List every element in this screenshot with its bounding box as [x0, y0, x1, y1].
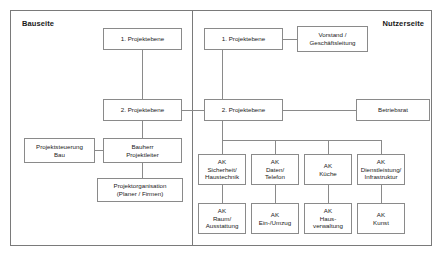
node-label: 1. Projektebene: [106, 35, 179, 43]
connector-bauherr-to-projektorganisation: [142, 163, 143, 178]
connector-nutzer-ebene1-to-vorstand: [283, 39, 297, 40]
node-label: 2. Projektebene: [106, 106, 179, 114]
node-label: AK Kunst: [360, 211, 402, 227]
panel-title-nutzerseite: Nutzerseite: [382, 19, 424, 28]
connector-ak-drop-4: [381, 140, 382, 154]
connector-ak-col1-row1-to-row2: [222, 185, 223, 203]
panel-title-bauseite: Bauseite: [22, 19, 54, 28]
node-ak-dienstleistung-infrastruktur[interactable]: AK Dienstleistung/ Infrastruktur: [357, 154, 405, 185]
connector-bau-ebene1-to-ebene2: [142, 50, 143, 99]
node-label: AK Raum/ Ausstattung: [201, 207, 243, 231]
node-betriebsrat[interactable]: Betriebsrat: [356, 99, 430, 121]
node-nutzerseite-projektebene-2[interactable]: 2. Projektebene: [204, 99, 283, 121]
node-label: Vorstand / Geschäftsleitung: [300, 31, 365, 47]
node-label: AK Daten/ Telefon: [254, 158, 296, 182]
panel-divider: [192, 10, 193, 246]
node-label: Projektsteuerung Bau: [27, 143, 92, 159]
node-ak-kunst[interactable]: AK Kunst: [357, 203, 405, 234]
organization-chart-diagram: Bauseite Nutzerseite 1. Projektebene 2. …: [0, 0, 442, 256]
node-ak-sicherheit-haustechnik[interactable]: AK Sicherheit/ Haustechnik: [198, 154, 246, 185]
node-ak-daten-telefon[interactable]: AK Daten/ Telefon: [251, 154, 299, 185]
connector-nutzer-ebene2-to-ak-bus: [222, 121, 223, 140]
node-ak-hausverwaltung[interactable]: AK Haus- verwaltung: [304, 203, 352, 234]
node-label: AK Küche: [307, 162, 349, 178]
connector-ak-drop-1: [222, 140, 223, 154]
node-label: AK Sicherheit/ Haustechnik: [201, 158, 243, 182]
node-bauseite-projektebene-2[interactable]: 2. Projektebene: [103, 99, 182, 121]
connector-ak-col3-row1-to-row2: [328, 185, 329, 203]
node-projektsteuerung-bau[interactable]: Projektsteuerung Bau: [24, 138, 95, 163]
node-bauseite-projektebene-1[interactable]: 1. Projektebene: [103, 28, 182, 50]
node-label: Betriebsrat: [359, 106, 427, 114]
node-projektorganisation[interactable]: Projektorganisation (Planer / Firmen): [97, 178, 183, 202]
connector-ak-col4-row1-to-row2: [381, 185, 382, 203]
node-label: 2. Projektebene: [207, 106, 280, 114]
node-label: Bauherr Projektleiter: [106, 143, 179, 159]
connector-ak-bus: [222, 140, 382, 141]
node-label: AK Ein-/Umzug: [254, 211, 296, 227]
node-bauherr-projektleiter[interactable]: Bauherr Projektleiter: [103, 138, 182, 163]
connector-ak-drop-3: [328, 140, 329, 154]
connector-ak-col2-row1-to-row2: [275, 185, 276, 203]
node-label: 1. Projektebene: [207, 35, 280, 43]
node-ak-kueche[interactable]: AK Küche: [304, 154, 352, 185]
node-vorstand-geschaeftsleitung[interactable]: Vorstand / Geschäftsleitung: [297, 26, 368, 52]
connector-projektsteuerung-to-bauherr: [95, 150, 103, 151]
node-ak-ein-umzug[interactable]: AK Ein-/Umzug: [251, 203, 299, 234]
node-ak-raum-ausstattung[interactable]: AK Raum/ Ausstattung: [198, 203, 246, 234]
connector-bau-ebene2-to-bauherr: [142, 121, 143, 138]
connector-nutzer-ebene2-to-betriebsrat: [283, 110, 356, 111]
connector-ak-drop-2: [275, 140, 276, 154]
node-label: Projektorganisation (Planer / Firmen): [100, 182, 180, 198]
connector-nutzer-ebene1-to-ebene2: [222, 50, 223, 99]
node-label: AK Dienstleistung/ Infrastruktur: [360, 158, 402, 182]
connector-bau-to-nutzer-ebene2: [182, 110, 204, 111]
node-nutzerseite-projektebene-1[interactable]: 1. Projektebene: [204, 28, 283, 50]
node-label: AK Haus- verwaltung: [307, 207, 349, 231]
